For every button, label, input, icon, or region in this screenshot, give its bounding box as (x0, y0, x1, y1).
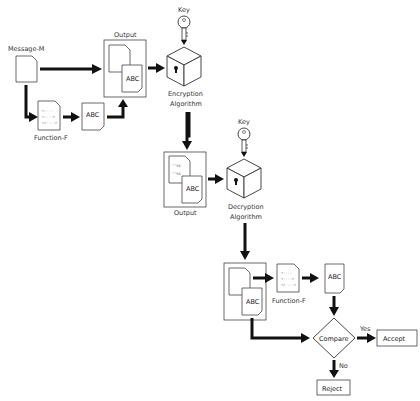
accept-label: Accept (383, 335, 406, 343)
abc-label: ABC (86, 111, 100, 119)
code-line: <---- (42, 109, 53, 113)
encryption-label: Encryption (168, 90, 203, 98)
arrow-received-to-compare (252, 318, 302, 338)
arrowhead-icon (92, 64, 102, 74)
algorithm-label: Algorithm (170, 100, 202, 108)
key-label: Key (178, 6, 190, 14)
output-label: Output (114, 31, 137, 39)
function-f-label: Function-F (272, 297, 306, 305)
arrowhead-icon (240, 251, 250, 260)
cipher-line: ^"%$ (172, 172, 181, 176)
algorithm-label: Algorithm (230, 213, 262, 221)
lock-cube-icon (227, 159, 261, 198)
output-label: Output (174, 209, 197, 217)
key-mid-node: Key (238, 118, 250, 157)
function-f-top-node: <---- <----> </----> Function-F (34, 101, 68, 142)
arrow-abc-to-output (107, 106, 123, 117)
function-f-bottom-node: <---- <----> </----> Function-F (272, 264, 306, 305)
compare-decision-node: Compare (313, 318, 355, 358)
abc-label: ABC (246, 298, 260, 306)
decryption-algorithm-node: Decryption Algorithm (227, 159, 264, 221)
reject-label: Reject (322, 385, 343, 393)
key-top-node: Key (178, 6, 190, 45)
lock-cube-icon (167, 47, 201, 86)
received-message-node: ABC (224, 263, 266, 320)
arrowhead-icon (29, 112, 38, 122)
key-label: Key (238, 118, 250, 126)
abc-label: ABC (126, 75, 140, 83)
yes-label: Yes (359, 325, 371, 333)
decryption-label: Decryption (228, 203, 264, 211)
abc-hash-top-node: ABC (82, 103, 104, 130)
code-line: <---- (281, 271, 292, 275)
abc-hash-bottom-node: ABC (325, 264, 344, 293)
arrowhead-icon (156, 63, 165, 73)
key-icon (238, 128, 250, 157)
code-line: </----> (42, 121, 58, 125)
arrowhead-icon (265, 273, 274, 283)
arrow-message-to-function (26, 85, 30, 117)
abc-label: ABC (186, 185, 200, 193)
key-icon (178, 16, 190, 45)
message-m-label: Message-M (8, 45, 44, 53)
accept-node: Accept (377, 330, 417, 346)
arrowhead-icon (182, 141, 192, 150)
arrowhead-icon (301, 333, 310, 343)
arrowhead-icon (310, 273, 319, 283)
output-top-node: Output ABC (104, 31, 146, 97)
arrowhead-icon (329, 370, 339, 378)
output-cipher-node: ^"%$ ^"%$ ABC Output (164, 152, 206, 217)
code-line: <----> (281, 277, 295, 281)
arrowhead-icon (71, 112, 80, 122)
encryption-algorithm-node: Encryption Algorithm (167, 47, 203, 108)
cipher-line: ^"%$ (172, 164, 181, 168)
reject-node: Reject (317, 380, 350, 395)
arrowhead-icon (118, 99, 128, 107)
no-label: No (339, 362, 348, 370)
arrowhead-icon (329, 307, 339, 316)
code-line: </----> (281, 283, 297, 287)
message-m-node: Message-M (8, 45, 44, 82)
arrowhead-icon (215, 174, 224, 184)
code-line: <----> (42, 115, 56, 119)
encryption-flow-diagram: Message-M <---- <----> </----> Function-… (0, 0, 420, 401)
function-f-label: Function-F (34, 134, 68, 142)
arrowhead-icon (367, 333, 376, 343)
abc-label: ABC (328, 273, 342, 281)
compare-label: Compare (319, 335, 349, 343)
document-icon (16, 56, 37, 82)
